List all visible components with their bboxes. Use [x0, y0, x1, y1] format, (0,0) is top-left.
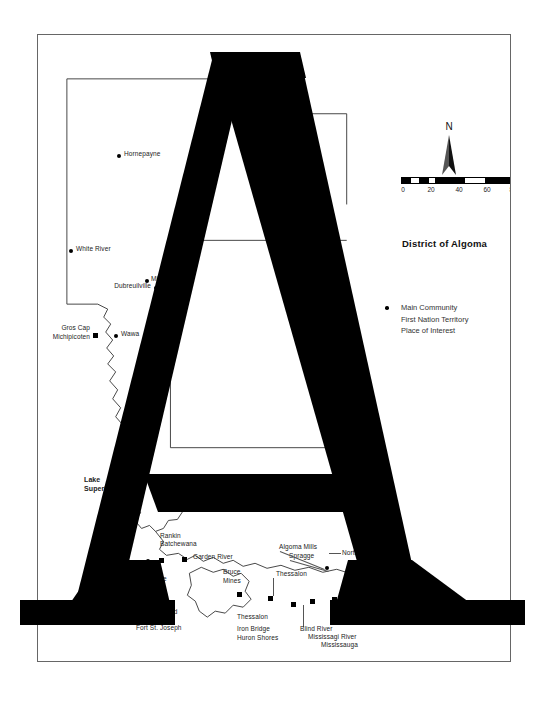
place-label-serpent-river: Serpent River: [348, 613, 389, 621]
legend-symbol-first-nation-icon: [385, 318, 389, 322]
scale-tick-40: 40: [455, 186, 462, 193]
place-label-white-river: White River: [76, 245, 111, 253]
scale-tick-20: 20: [427, 186, 434, 193]
legend-symbol-place-of-interest-icon: [385, 329, 389, 333]
place-marker-white-river[interactable]: [69, 249, 73, 253]
place-label-bruce-mines: Bruce Mines: [223, 568, 241, 585]
leader-line-north: [329, 553, 341, 554]
place-marker-bruce-mines[interactable]: [237, 592, 242, 597]
place-label-algoma-mills: Algoma Mills: [279, 543, 317, 551]
scale-bar-ticks: 0 20 40 60 80: [401, 186, 511, 196]
place-label-thessalon-north: Thessalon: [276, 570, 307, 578]
place-label-batchewana: Batchewana: [160, 540, 197, 548]
place-label-mississagi-river: Mississagi River: [308, 633, 357, 641]
place-marker-garden-river[interactable]: [182, 557, 187, 562]
place-label-garden-river: Garden River: [193, 553, 233, 561]
place-label-dubreuilville: Dubreuilville: [114, 282, 151, 290]
map-title: District of Algoma: [402, 238, 487, 249]
lake-superior-bay: [135, 475, 198, 532]
scale-tick-60: 60: [483, 186, 490, 193]
place-label-thessalon-south: Thessalon: [237, 613, 268, 621]
legend-label-main-community: Main Community: [401, 303, 457, 312]
legend-label-place-of-interest: Place of Interest: [401, 326, 455, 335]
scale-bar: [401, 177, 511, 184]
map-page: Hornepayne White River Dubreuilville Mis…: [0, 0, 544, 702]
leader-line-thessalon-north: [273, 578, 274, 596]
place-marker-batchewana[interactable]: [159, 558, 164, 563]
place-marker-wawa[interactable]: [114, 334, 118, 338]
legend-label-first-nation-territory: First Nation Territory: [401, 315, 468, 324]
place-marker-dubreuilville[interactable]: [154, 286, 158, 290]
scale-tick-0: 0: [401, 186, 405, 193]
place-label-hornepayne: Hornepayne: [124, 150, 160, 158]
place-marker-missanabie[interactable]: [145, 279, 149, 283]
map-legend: Main Community First Nation Territory Pl…: [401, 302, 468, 337]
legend-item-main-community[interactable]: Main Community: [401, 302, 468, 314]
legend-symbol-dot-icon: [385, 306, 389, 310]
place-label-wawa: Wawa: [121, 330, 139, 338]
water-label-lake-superior: Lake Superior: [84, 476, 114, 493]
place-label-iron-bridge-huron-shores: Iron Bridge Huron Shores: [237, 625, 278, 642]
place-label-st-joseph-island: St. Joseph Island: [126, 608, 178, 616]
place-label-fort-st-joseph: Fort St. Joseph: [136, 624, 182, 632]
place-label-blind-river: Blind River: [300, 625, 333, 633]
district-mid-boundary-2: [170, 372, 366, 448]
place-label-rankin: Rankin: [160, 532, 181, 540]
scale-tick-80: 80: [509, 186, 511, 193]
north-arrow-glyph: [436, 135, 462, 179]
place-label-gros-cap-michipicoten: Gros Cap Michipicoten: [53, 324, 90, 341]
north-arrow: N: [436, 121, 462, 177]
place-marker-iron-bridge[interactable]: [310, 599, 315, 604]
place-label-mississauga: Mississauga: [321, 641, 358, 649]
north-arrow-label: N: [436, 121, 462, 132]
place-marker-thessalon-north[interactable]: [268, 596, 273, 601]
legend-item-first-nation-territory[interactable]: First Nation Territory: [401, 314, 468, 326]
place-label-sault-ste-marie: Ste. Marie: [136, 575, 167, 583]
legend-item-place-of-interest[interactable]: Place of Interest: [401, 325, 468, 337]
place-marker-thessalon-south[interactable]: [291, 602, 296, 607]
place-label-north: North: [342, 549, 358, 557]
district-north-boundary: [67, 79, 347, 205]
place-label-missanabie: Missanabie: [151, 275, 185, 283]
leader-line-iron-bridge: [303, 605, 304, 627]
place-marker-mississagi-river[interactable]: [332, 597, 337, 602]
place-marker-gros-cap-michipicoten[interactable]: [93, 333, 98, 338]
place-marker-hornepayne[interactable]: [117, 154, 121, 158]
map-frame: Hornepayne White River Dubreuilville Mis…: [37, 34, 511, 662]
place-marker-rankin[interactable]: [146, 559, 150, 563]
